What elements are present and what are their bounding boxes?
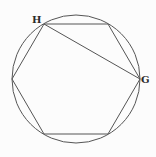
inscribed-hexagon xyxy=(12,24,140,134)
vertex-label-h: H xyxy=(32,14,41,25)
diagram-canvas: H G xyxy=(0,0,156,157)
diagonal-hg xyxy=(44,24,140,79)
vertex-label-g: G xyxy=(141,74,150,85)
circumscribed-circle xyxy=(12,15,140,143)
hexagon-diagram: H G xyxy=(0,0,156,157)
